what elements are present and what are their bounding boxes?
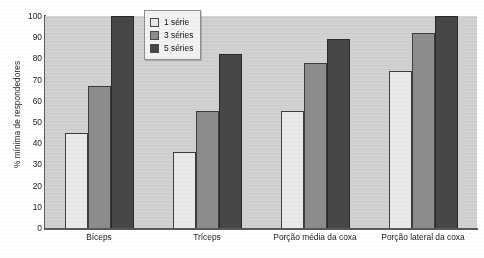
legend-swatch-icon bbox=[150, 31, 159, 40]
bar[interactable] bbox=[281, 111, 304, 228]
bar[interactable] bbox=[88, 86, 111, 228]
legend-item-label: 3 séries bbox=[164, 31, 193, 40]
bar[interactable] bbox=[327, 39, 350, 228]
legend-swatch-icon bbox=[150, 18, 159, 27]
x-axis-line bbox=[44, 228, 478, 230]
bar-group bbox=[45, 16, 153, 228]
legend-item[interactable]: 3 séries bbox=[150, 29, 193, 41]
bar[interactable] bbox=[196, 111, 219, 228]
bar[interactable] bbox=[173, 152, 196, 228]
bar-chart-figure: % mínima de respondedores 10090807060504… bbox=[0, 0, 484, 258]
y-axis-tick-label: 100 bbox=[18, 12, 42, 20]
bar[interactable] bbox=[412, 33, 435, 228]
y-axis-tick-label: 90 bbox=[18, 33, 42, 41]
bar[interactable] bbox=[304, 63, 327, 228]
y-axis-tick-label: 10 bbox=[18, 203, 42, 211]
legend-swatch-icon bbox=[150, 44, 159, 53]
bar-groups bbox=[45, 16, 477, 228]
x-axis-category-label: Porção lateral da coxa bbox=[369, 232, 477, 243]
y-axis-tick-label: 50 bbox=[18, 118, 42, 126]
bar[interactable] bbox=[389, 71, 412, 228]
legend: 1 série3 séries5 séries bbox=[144, 10, 201, 60]
y-axis-tick-labels: 1009080706050403020100 bbox=[18, 16, 42, 228]
x-axis-category-label: Tríceps bbox=[153, 232, 261, 243]
y-axis-tick-label: 70 bbox=[18, 76, 42, 84]
legend-item[interactable]: 5 séries bbox=[150, 42, 193, 54]
x-axis-category-labels: BícepsTrícepsPorção média da coxaPorção … bbox=[45, 232, 477, 243]
y-axis-tick-label: 20 bbox=[18, 182, 42, 190]
y-axis-tick-label: 30 bbox=[18, 160, 42, 168]
legend-item[interactable]: 1 série bbox=[150, 16, 193, 28]
legend-item-label: 1 série bbox=[164, 18, 189, 27]
bar[interactable] bbox=[435, 16, 458, 228]
y-axis-tick-label: 40 bbox=[18, 139, 42, 147]
bar-group bbox=[369, 16, 477, 228]
y-axis-tick-label: 80 bbox=[18, 54, 42, 62]
legend-item-label: 5 séries bbox=[164, 44, 193, 53]
bar[interactable] bbox=[219, 54, 242, 228]
bar[interactable] bbox=[111, 16, 134, 228]
bar[interactable] bbox=[65, 133, 88, 228]
x-axis-category-label: Bíceps bbox=[45, 232, 153, 243]
y-axis-tick-label: 0 bbox=[18, 224, 42, 232]
bar-group bbox=[261, 16, 369, 228]
x-axis-category-label: Porção média da coxa bbox=[261, 232, 369, 243]
y-axis-tick-label: 60 bbox=[18, 97, 42, 105]
